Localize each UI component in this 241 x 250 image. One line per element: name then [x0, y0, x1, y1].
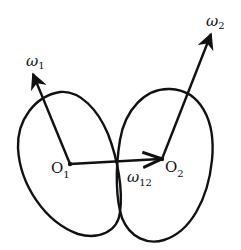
omega-2-arrow	[162, 34, 211, 159]
center-point-1	[68, 162, 72, 166]
diagram-canvas: ω1 ω2 ω12 O1 O2	[0, 0, 241, 250]
omega-1-label: ω1	[26, 52, 45, 71]
omega-2-label: ω2	[206, 12, 225, 31]
center-point-2	[160, 157, 164, 161]
omega-12-label: ω12	[127, 168, 152, 188]
center-1-label: O1	[51, 159, 70, 180]
omega-1-arrow	[33, 74, 70, 164]
center-2-label: O2	[165, 158, 184, 179]
